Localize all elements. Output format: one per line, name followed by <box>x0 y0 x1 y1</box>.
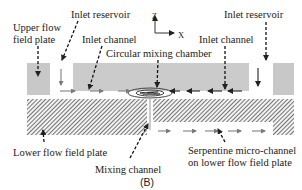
mixing-channel-label: Mixing channel <box>95 164 161 176</box>
inlet-reservoir-left-label: Inlet reservoir <box>71 9 130 21</box>
panel-label: (B) <box>140 176 154 188</box>
axis-indicator <box>155 16 174 33</box>
upper-plate-label-line2: field plate <box>13 34 55 46</box>
inlet-channel-left-label: Inlet channel <box>82 34 137 46</box>
z-axis-label: Z <box>152 11 157 23</box>
upper-flow-field-plate <box>27 63 294 95</box>
lower-plate-label: Lower flow field plate <box>13 147 107 159</box>
inlet-channel-right-label: Inlet channel <box>199 34 254 46</box>
serpentine-label-line2: on lower flow field plate <box>188 157 292 169</box>
upper-plate-label-line1: Upper flow <box>13 22 61 34</box>
x-axis-label: X <box>178 29 184 41</box>
serpentine-label-line1: Serpentine micro-channel <box>188 145 296 157</box>
lower-flow-field-plate <box>27 99 294 135</box>
circular-mixing-chamber-label: Circular mixing chamber <box>106 48 212 60</box>
inlet-reservoir-right-label: Inlet reservoir <box>224 9 283 21</box>
circular-mixing-chamber <box>128 88 172 98</box>
